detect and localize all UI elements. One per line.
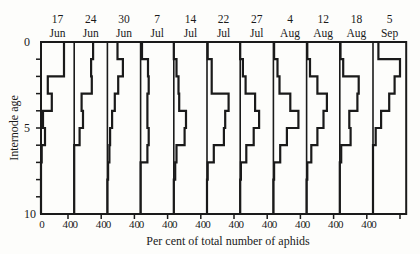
- panel-date-day: 7: [154, 13, 160, 25]
- x-tick-0: 0: [106, 218, 112, 230]
- histogram-step-18-aug: [340, 42, 359, 214]
- histogram-step-27-jul: [240, 42, 259, 214]
- chart: 0 5 10 Internode age Per cent of total n…: [0, 0, 420, 254]
- y-axis-label: Internode age: [7, 95, 21, 161]
- panels: [41, 42, 400, 214]
- panel-date-month: Jul: [150, 27, 163, 39]
- y-tick-10: 10: [24, 207, 36, 221]
- histogram-step-24-jun: [74, 42, 93, 214]
- histogram-step-14-jul: [174, 42, 186, 214]
- histogram-step-17-jun: [41, 42, 64, 214]
- x-tick-0: 0: [272, 218, 278, 230]
- panel-date-month: Jun: [50, 27, 66, 39]
- histogram-step-4-aug: [273, 42, 298, 214]
- panel-date-month: Jul: [217, 27, 230, 39]
- x-tick-0: 0: [139, 218, 145, 230]
- panel-date-month: Jun: [116, 27, 132, 39]
- panel-date-day: 14: [185, 13, 197, 25]
- x-tick-0: 0: [172, 218, 178, 230]
- panel-date-day: 5: [387, 13, 393, 25]
- y-tick-0: 0: [24, 35, 30, 49]
- x-tick-0: 0: [72, 218, 78, 230]
- histogram-step-22-jul: [207, 42, 229, 214]
- panel-date-day: 4: [287, 13, 293, 25]
- histogram-step-30-jun: [107, 42, 123, 214]
- histogram-step-5-sep: [373, 42, 400, 214]
- x-tick-labels: 0400400400400400400400400400400: [39, 218, 377, 230]
- y-tick-5: 5: [24, 121, 30, 135]
- panel-date-month: Aug: [280, 27, 300, 40]
- panel-date-day: 22: [218, 13, 230, 25]
- panel-date-day: 12: [317, 13, 329, 25]
- panel-date-day: 27: [251, 13, 263, 25]
- x-tick-0: 0: [205, 218, 211, 230]
- panel-date-month: Jul: [250, 27, 263, 39]
- histogram-step-12-aug: [307, 42, 327, 214]
- x-axis-title: Per cent of total number of aphids: [146, 234, 310, 248]
- panel-date-month: Sep: [381, 27, 399, 40]
- x-tick-0: 0: [39, 218, 45, 230]
- histogram-step-7-jul: [141, 42, 149, 214]
- panel-date-month: Jun: [83, 27, 99, 39]
- panel-date-day: 24: [85, 13, 97, 25]
- panel-date-day: 18: [351, 13, 363, 25]
- x-tick-0: 0: [338, 218, 344, 230]
- panel-headers: 17Jun24Jun30Jun7Jul14Jul22Jul27Jul4Aug12…: [50, 13, 399, 40]
- x-tick-0: 0: [238, 218, 244, 230]
- panel-date-month: Aug: [346, 27, 366, 40]
- panel-date-day: 17: [52, 13, 64, 25]
- panel-date-month: Aug: [313, 27, 333, 40]
- panel-date-month: Jul: [184, 27, 197, 39]
- x-tick-0: 0: [371, 218, 377, 230]
- panel-date-day: 30: [118, 13, 130, 25]
- x-tick-0: 0: [305, 218, 311, 230]
